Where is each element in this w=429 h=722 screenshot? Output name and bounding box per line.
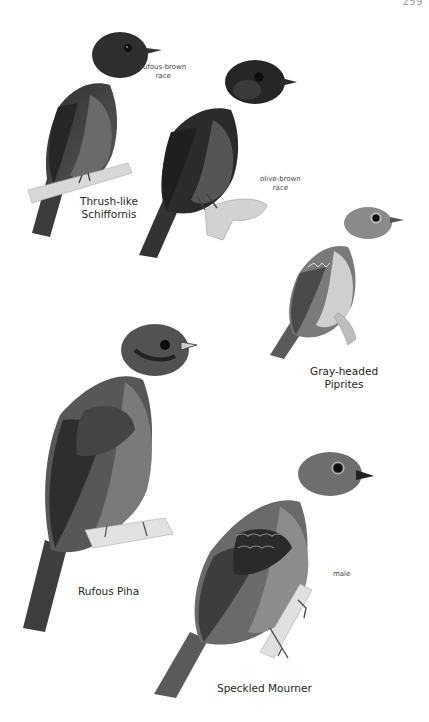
species-label-thrush-like-schiffornis: Thrush-like Schiffornis (80, 195, 138, 220)
species-label-gray-headed-piprites: Gray-headed Piprites (310, 365, 378, 390)
field-guide-page: 259 (0, 0, 429, 722)
note-line: olive-brown (260, 175, 301, 184)
illustration-gray-headed-piprites (268, 205, 408, 365)
species-name-line: Gray-headed (310, 365, 378, 378)
species-name-line: Schiffornis (80, 208, 138, 221)
species-label-rufous-piha: Rufous Piha (78, 585, 139, 598)
species-name-line: Thrush-like (80, 195, 138, 208)
species-label-speckled-mourner: Speckled Mourner (217, 682, 312, 695)
figure-note-olive-brown: olive-brown race (260, 175, 301, 193)
species-name-line: Rufous Piha (78, 585, 139, 598)
page-number: 259 (402, 0, 423, 7)
species-name-line: Piprites (310, 378, 378, 391)
figure-note-male: male (333, 570, 350, 579)
note-line: race (260, 184, 301, 193)
species-name-line: Speckled Mourner (217, 682, 312, 695)
note-line: male (333, 570, 350, 579)
